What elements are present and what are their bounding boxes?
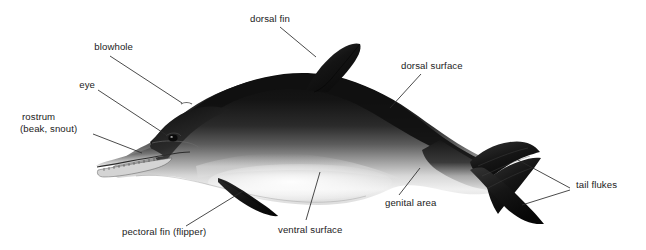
leader-pectoral-fin [186, 191, 243, 226]
label-genital-area: genital area [385, 197, 436, 209]
label-dorsal-surface: dorsal surface [401, 60, 463, 72]
dolphin-anatomy-figure: dorsal fin blowhole eye rostrum (beak, s… [0, 0, 646, 250]
leader-tail-flukes-lower [522, 190, 570, 205]
label-tail-flukes: tail flukes [576, 179, 617, 191]
label-dorsal-fin: dorsal fin [250, 13, 290, 25]
label-rostrum-line2: (beak, snout) [20, 123, 77, 135]
label-ventral-surface: ventral surface [278, 224, 342, 236]
label-pectoral-fin: pectoral fin (flipper) [122, 226, 206, 238]
leader-genital-area [399, 168, 420, 195]
leader-ventral-surface [306, 172, 320, 220]
label-rostrum-line1: rostrum [22, 111, 55, 123]
leader-dorsal-surface [390, 74, 421, 108]
leader-tail-flukes-upper [518, 160, 570, 188]
label-eye: eye [0, 79, 95, 91]
callout-leader-lines [0, 0, 646, 250]
leader-rostrum [93, 134, 142, 153]
leader-dorsal-fin [280, 27, 316, 57]
leader-eye [98, 90, 168, 136]
label-blowhole: blowhole [0, 41, 133, 53]
leader-blowhole [110, 56, 182, 103]
